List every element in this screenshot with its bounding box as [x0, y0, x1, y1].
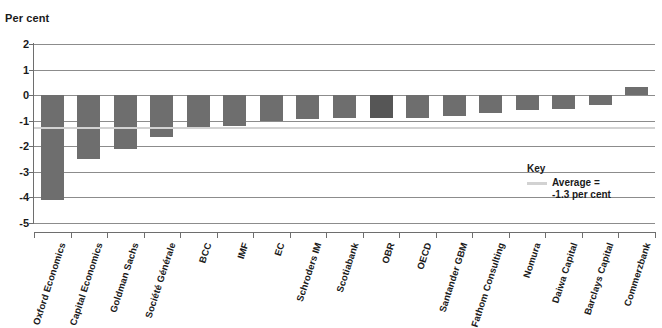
x-axis-category-label: Fathom Consulting: [468, 241, 506, 328]
x-axis-category-label: EC: [272, 241, 287, 257]
x-axis-category-label: Goldman Sachs: [108, 241, 141, 314]
x-axis-category-label: Schroders IM: [294, 241, 323, 303]
bar: [552, 95, 575, 109]
bar: [370, 95, 393, 118]
y-axis-tick: [29, 146, 34, 147]
bar: [114, 95, 137, 149]
x-axis-category-label: OECD: [414, 241, 433, 271]
x-axis-tick: [217, 232, 218, 238]
legend: Key Average = -1.3 per cent: [527, 163, 657, 201]
bar: [333, 95, 356, 118]
average-line: [34, 127, 655, 129]
legend-item-label: Average = -1.3 per cent: [552, 177, 611, 201]
y-axis-tick-label: -4: [3, 191, 29, 203]
y-axis-tick-label: 2: [3, 38, 29, 50]
bar: [150, 95, 173, 137]
x-axis-tick: [363, 232, 364, 238]
x-axis-tick: [107, 232, 108, 238]
y-axis-tick: [29, 223, 34, 224]
y-axis-tick-label: -1: [3, 115, 29, 127]
bar: [479, 95, 502, 113]
y-axis-tick: [29, 70, 34, 71]
x-axis-tick: [34, 232, 35, 238]
bar: [625, 87, 648, 95]
gridline: [34, 70, 655, 71]
bar: [223, 95, 246, 126]
y-axis-tick: [29, 44, 34, 45]
x-axis-category-label: Barclays Capital: [582, 241, 616, 316]
x-axis-category-label: Société Générale: [143, 241, 178, 319]
x-axis-tick: [509, 232, 510, 238]
x-axis-tick: [290, 232, 291, 238]
y-axis-tick: [29, 121, 34, 122]
legend-line-swatch: [527, 182, 547, 185]
x-axis-tick: [582, 232, 583, 238]
x-axis-category-label: IMF: [235, 241, 251, 260]
x-axis-tick: [545, 232, 546, 238]
y-axis-tick-label: -3: [3, 166, 29, 178]
bar: [296, 95, 319, 119]
x-axis-tick: [71, 232, 72, 238]
x-axis-tick: [144, 232, 145, 238]
x-axis-tick: [472, 232, 473, 238]
legend-title: Key: [527, 163, 657, 174]
gridline: [34, 223, 655, 224]
x-axis-tick: [399, 232, 400, 238]
y-axis-tick-label: -2: [3, 140, 29, 152]
bar: [406, 95, 429, 118]
x-axis-category-label: Oxford Economics: [31, 241, 68, 326]
y-axis-tick-label: 0: [3, 89, 29, 101]
x-axis-category-label: BCC: [197, 241, 214, 264]
x-axis-category-label: Daiwa Capital: [549, 241, 579, 304]
bar: [516, 95, 539, 110]
x-axis-category-label: Santander GBM: [437, 241, 470, 313]
x-axis-tick: [436, 232, 437, 238]
bar: [443, 95, 466, 115]
y-axis-tick-label: -5: [3, 217, 29, 229]
bar: [589, 95, 612, 105]
x-axis-category-label: OBR: [379, 241, 396, 265]
y-axis-tick: [29, 95, 34, 96]
x-axis-line: [34, 232, 655, 233]
x-axis-tick: [618, 232, 619, 238]
x-axis-category-label: Nomura: [521, 241, 543, 279]
x-axis-category-label: Scotiabank: [334, 241, 360, 294]
x-axis-tick: [326, 232, 327, 238]
legend-item-average: Average = -1.3 per cent: [527, 177, 657, 201]
y-axis-tick: [29, 197, 34, 198]
gridline: [34, 44, 655, 45]
bar: [260, 95, 283, 121]
y-axis-tick-labels: 210-1-2-3-4-5: [0, 0, 29, 321]
x-axis-category-label: Commerzbank: [621, 241, 652, 308]
bar: [187, 95, 210, 128]
x-axis-tick: [253, 232, 254, 238]
y-axis-tick-label: 1: [3, 64, 29, 76]
x-axis-tick: [180, 232, 181, 238]
x-axis-category-label: Capital Economics: [67, 241, 104, 327]
y-axis-tick: [29, 172, 34, 173]
x-axis-tick: [655, 232, 656, 238]
bar: [41, 95, 64, 200]
